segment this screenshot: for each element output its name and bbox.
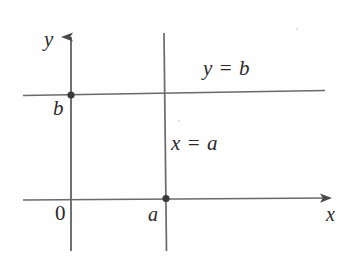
annotation-x-equals-a: x = a <box>171 133 218 154</box>
coordinate-plane-figure: y x 0 b a y = b x = a <box>0 0 361 260</box>
x-axis-label: x <box>326 204 335 224</box>
annotation-y-equals-b: y = b <box>203 58 250 79</box>
y-axis-label: y <box>44 29 53 50</box>
x-axis-line <box>23 198 330 200</box>
point-0-b <box>67 91 74 98</box>
y-tick-label-b: b <box>53 98 64 119</box>
line-x-equals-a <box>164 33 167 251</box>
point-a-0 <box>162 195 169 202</box>
x-tick-label-a: a <box>148 204 158 224</box>
origin-label: 0 <box>55 203 66 224</box>
